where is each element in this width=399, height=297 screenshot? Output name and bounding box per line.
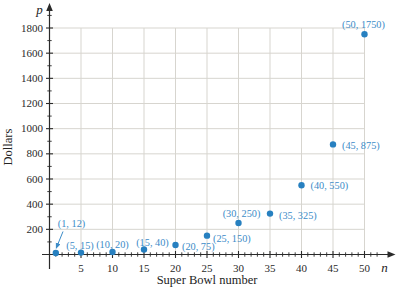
data-point (330, 141, 336, 147)
data-point-label: (15, 40) (136, 237, 169, 249)
x-tick-label: 15 (139, 262, 151, 274)
data-points (53, 31, 368, 256)
x-axis-title: Super Bowl number (157, 273, 259, 287)
x-tick-label: 35 (265, 262, 277, 274)
tick-marks (46, 15, 377, 258)
data-point (172, 242, 178, 248)
data-point (53, 250, 59, 256)
y-tick-label: 1400 (21, 72, 44, 84)
y-axis-symbol: p (35, 2, 43, 17)
data-point-label: (1, 12) (58, 218, 85, 230)
gridlines (50, 28, 365, 254)
y-tick-label: 200 (27, 223, 44, 235)
data-point-label: (5, 15) (66, 240, 93, 252)
tick-labels: 5101520253035404550200400600800100012001… (21, 22, 371, 274)
data-point-label: (35, 325) (279, 210, 317, 222)
data-point-label: (30, 250) (223, 208, 261, 220)
y-tick-label: 800 (27, 147, 44, 159)
x-axis-arrowhead (388, 251, 396, 258)
data-point (235, 220, 241, 226)
x-tick-label: 40 (296, 262, 308, 274)
y-tick-label: 1600 (21, 47, 44, 59)
data-point-label: (40, 550) (311, 180, 349, 192)
y-tick-label: 600 (27, 173, 44, 185)
x-tick-label: 45 (328, 262, 340, 274)
callout-line (56, 232, 63, 249)
data-point (298, 182, 304, 188)
data-point-label: (50, 1750) (342, 19, 385, 31)
x-tick-label: 25 (202, 262, 214, 274)
data-point-label: (10, 20) (96, 239, 129, 251)
data-point (204, 232, 210, 238)
data-point-label: (45, 875) (342, 140, 380, 152)
point-labels: (1, 12)(5, 15)(10, 20)(15, 40)(20, 75)(2… (58, 19, 385, 253)
x-tick-label: 30 (233, 262, 245, 274)
data-point (267, 210, 273, 216)
y-axis-arrowhead (46, 3, 53, 11)
y-tick-label: 1800 (21, 22, 44, 34)
x-axis-symbol: n (381, 260, 388, 275)
y-axis-title: Dollars (1, 128, 15, 165)
scatter-plot-figure: 5101520253035404550200400600800100012001… (0, 0, 399, 297)
y-tick-label: 1200 (21, 97, 44, 109)
y-tick-label: 400 (27, 198, 44, 210)
data-point-label: (20, 75) (182, 241, 215, 253)
y-tick-label: 1000 (21, 122, 44, 134)
chart-canvas: 5101520253035404550200400600800100012001… (0, 0, 399, 297)
callout-lines (56, 232, 63, 249)
x-tick-label: 10 (107, 262, 119, 274)
x-tick-label: 50 (359, 262, 371, 274)
data-point (361, 31, 367, 37)
x-tick-label: 5 (78, 262, 84, 274)
x-tick-label: 20 (170, 262, 182, 274)
data-point-label: (25, 150) (213, 233, 251, 245)
